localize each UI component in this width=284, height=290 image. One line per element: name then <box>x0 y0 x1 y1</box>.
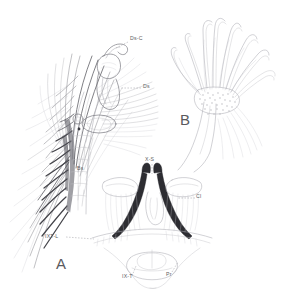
annotation-bs: Bs <box>77 166 83 171</box>
figure-b-artwork <box>171 18 275 172</box>
figure-label-a: A <box>56 256 66 271</box>
figure-a-aedeagus <box>112 163 192 239</box>
figure-b-stipple-base <box>194 87 239 115</box>
figure-a-basal-lobe <box>73 114 116 133</box>
annotation-pr: Pr <box>166 272 172 277</box>
annotation-x-s: X-S <box>145 157 154 162</box>
figure-a-ninth-tergite <box>104 248 200 289</box>
figure-a-tergite-band <box>92 229 212 246</box>
figure-b-spines <box>171 18 275 100</box>
annotation-ixt-l: IXT-L <box>45 234 58 239</box>
figure-a-setae-right-brush <box>98 58 158 155</box>
illustration-plate: Ds-C Ds Bs X-S Cl IXT-L IX-T Pr A B <box>0 0 284 290</box>
annotation-ds-c: Ds-C <box>130 36 143 41</box>
figure-a-artwork <box>10 42 212 289</box>
figure-label-b: B <box>180 112 190 127</box>
figure-a-leader-lines <box>66 42 195 276</box>
annotation-cl: Cl <box>196 194 201 199</box>
figure-b-basal-hairs <box>218 106 262 159</box>
annotation-ix-t: IX-T <box>122 274 133 279</box>
plate-linework <box>0 0 284 290</box>
annotation-ds: Ds <box>143 84 150 89</box>
